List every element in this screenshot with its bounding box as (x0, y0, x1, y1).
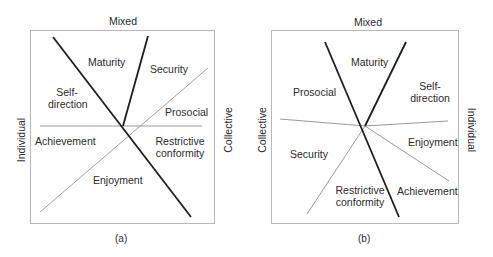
panel-b-restrictive-line1: Restrictive (332, 184, 388, 196)
panel-b: Mixed Collective Individual Maturity Pro… (245, 0, 493, 257)
panel-b-region-self-direction: Self- direction (405, 80, 455, 104)
panel-b-region-restrictive-conformity: Restrictive conformity (332, 184, 388, 208)
panel-b-mixed-boundary (365, 42, 406, 126)
panel-a-diagram-lines (0, 0, 245, 257)
panel-b-left-divider (280, 119, 365, 126)
panel-a-region-maturity: Maturity (88, 56, 125, 68)
panel-a-axis-top: Mixed (109, 15, 137, 27)
panel-b-region-achievement: Achievement (397, 185, 458, 197)
panel-b-diagram-lines (245, 0, 493, 257)
panel-a-self-direction-line2: direction (48, 98, 86, 110)
panel-b-restrictive-line2: conformity (332, 196, 388, 208)
panel-b-self-direction-line2: direction (405, 92, 455, 104)
panel-b-axis-top: Mixed (354, 16, 382, 28)
panel-b-caption: (b) (358, 233, 370, 244)
panel-b-region-enjoyment: Enjoyment (408, 136, 458, 148)
panel-b-self-direction-line1: Self- (405, 80, 455, 92)
panel-a-self-direction-line1: Self- (48, 86, 86, 98)
panel-a-mixed-boundary (123, 36, 148, 126)
panel-b-axis-left: Collective (256, 105, 268, 155)
panel-a-region-restrictive-conformity: Restrictive conformity (155, 135, 205, 159)
panel-b-region-security: Security (290, 148, 328, 160)
panel-b-axis-right: Individual (466, 105, 478, 155)
panel-a-region-prosocial: Prosocial (165, 106, 208, 118)
panel-b-lower-right-divider (365, 126, 449, 181)
panel-b-region-prosocial: Prosocial (293, 86, 336, 98)
panel-b-region-maturity: Maturity (351, 56, 388, 68)
panel-a-region-security: Security (150, 63, 188, 75)
panel-a-region-achievement: Achievement (35, 135, 96, 147)
panel-a-caption: (a) (115, 233, 127, 244)
panel-a-region-enjoyment: Enjoyment (93, 174, 143, 186)
panel-a-restrictive-line1: Restrictive (155, 135, 205, 147)
panel-b-right-divider (365, 121, 448, 126)
panel-a: Mixed Individual Collective Maturity Sec… (0, 0, 245, 257)
panel-a-region-self-direction: Self- direction (48, 86, 86, 110)
panel-a-axis-right: Collective (222, 105, 234, 155)
panel-a-axis-left: Individual (15, 115, 27, 165)
panel-a-restrictive-line2: conformity (155, 147, 205, 159)
